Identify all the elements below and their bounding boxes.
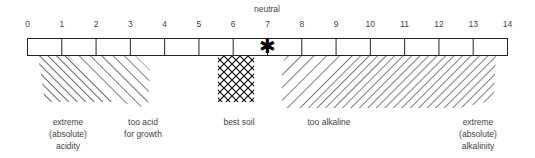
zone-best-soil (218, 56, 254, 102)
label-extreme-alkalinity: extreme (absolute) alkalinity (459, 116, 497, 152)
tick-label: 0 (25, 19, 30, 29)
label-too-alkaline: too alkaline (307, 116, 350, 128)
tick-label: 8 (299, 19, 304, 29)
tick-label: 9 (334, 19, 339, 29)
tick-label: 1 (59, 19, 64, 29)
tick-label: 7 (265, 19, 270, 29)
label-extreme-acidity: extreme (absolute) acidity (49, 116, 87, 152)
label-too-acid: too acid for growth (124, 116, 162, 140)
tick-label: 12 (434, 19, 443, 29)
tick-label: 6 (231, 19, 236, 29)
tick-label: 5 (197, 19, 202, 29)
neutral-label: neutral (254, 4, 280, 14)
neutral-asterisk-icon: ✱ (259, 34, 276, 58)
tick-label: 2 (94, 19, 99, 29)
tick-label: 10 (366, 19, 375, 29)
tick-label: 14 (503, 19, 512, 29)
tick-label: 13 (468, 19, 477, 29)
tick-label: 11 (400, 19, 409, 29)
label-best-soil: best soil (223, 116, 254, 128)
tick-label: 4 (162, 19, 167, 29)
svg-text:✱: ✱ (259, 34, 276, 58)
tick-label: 3 (128, 19, 133, 29)
